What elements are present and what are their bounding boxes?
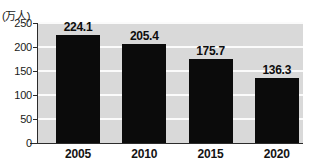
y-axis-tick-label: 100 — [2, 89, 32, 101]
x-axis-tick-label: 2020 — [247, 147, 307, 161]
x-axis-tick-label: 2010 — [114, 147, 174, 161]
y-axis-tick-label: 150 — [2, 65, 32, 77]
y-axis-tick-label: 50 — [2, 113, 32, 125]
bar-value-label: 136.3 — [245, 63, 309, 77]
y-axis-tick-label: 0 — [2, 137, 32, 149]
bar-value-label: 224.1 — [46, 20, 110, 34]
bar-value-label: 205.4 — [112, 29, 176, 43]
y-axis-tick-mark — [33, 119, 38, 120]
x-axis-line — [30, 143, 303, 144]
y-axis-tick-label: 200 — [2, 41, 32, 53]
bar — [122, 44, 166, 143]
bar — [189, 59, 233, 143]
bar-chart: (万人) 050100150200250 2005201020152020 22… — [0, 0, 309, 167]
x-axis-tick-label: 2005 — [48, 147, 108, 161]
y-axis-tick-mark — [33, 95, 38, 96]
x-axis-tick-label: 2015 — [181, 147, 241, 161]
y-axis-line — [37, 23, 38, 144]
bar — [56, 35, 100, 143]
y-axis-tick-mark — [33, 47, 38, 48]
y-axis-tick-labels: 050100150200250 — [0, 0, 32, 167]
bar-value-label: 175.7 — [179, 44, 243, 58]
bar — [255, 78, 299, 143]
y-axis-tick-mark — [33, 143, 38, 144]
y-axis-tick-mark — [33, 71, 38, 72]
y-axis-tick-label: 250 — [2, 17, 32, 29]
y-axis-tick-mark — [33, 23, 38, 24]
